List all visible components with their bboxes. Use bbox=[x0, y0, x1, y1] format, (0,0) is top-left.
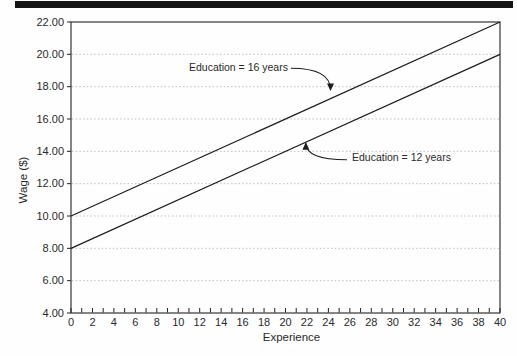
x-tick-label: 18 bbox=[258, 316, 270, 328]
x-axis-label: Experience bbox=[263, 331, 321, 343]
y-tick-label: 4.00 bbox=[43, 307, 64, 319]
x-tick-label: 30 bbox=[387, 316, 399, 328]
y-tick-label: 12.00 bbox=[36, 177, 64, 189]
x-tick-label: 24 bbox=[322, 316, 334, 328]
y-tick-label: 16.00 bbox=[36, 113, 64, 125]
x-tick-label: 28 bbox=[365, 316, 377, 328]
y-tick-label: 10.00 bbox=[36, 210, 64, 222]
x-tick-label: 2 bbox=[89, 316, 95, 328]
x-tick-label: 12 bbox=[194, 316, 206, 328]
y-tick-label: 20.00 bbox=[36, 48, 64, 60]
textbook-figure-page: 4.006.008.0010.0012.0014.0016.0018.0020.… bbox=[0, 0, 517, 356]
x-tick-label: 10 bbox=[172, 316, 184, 328]
x-tick-label: 34 bbox=[430, 316, 442, 328]
annotation-label-1: Education = 16 years bbox=[189, 61, 288, 73]
x-tick-label: 22 bbox=[301, 316, 313, 328]
annotation-arrow-2 bbox=[306, 143, 347, 160]
x-tick-label: 38 bbox=[472, 316, 484, 328]
x-tick-label: 14 bbox=[215, 316, 227, 328]
x-tick-label: 4 bbox=[111, 316, 117, 328]
x-tick-label: 8 bbox=[154, 316, 160, 328]
x-tick-label: 0 bbox=[68, 316, 74, 328]
x-tick-label: 20 bbox=[279, 316, 291, 328]
y-tick-label: 18.00 bbox=[36, 80, 64, 92]
y-axis-label: Wage ($) bbox=[17, 156, 29, 203]
annotation-label-2: Education = 12 years bbox=[352, 151, 451, 163]
x-tick-label: 32 bbox=[408, 316, 420, 328]
wage-experience-line-chart: 4.006.008.0010.0012.0014.0016.0018.0020.… bbox=[0, 0, 517, 356]
y-tick-label: 6.00 bbox=[43, 274, 64, 286]
x-tick-label: 6 bbox=[132, 316, 138, 328]
y-tick-label: 8.00 bbox=[43, 242, 64, 254]
y-tick-label: 14.00 bbox=[36, 145, 64, 157]
x-tick-label: 36 bbox=[451, 316, 463, 328]
x-tick-label: 16 bbox=[236, 316, 248, 328]
x-tick-label: 40 bbox=[494, 316, 506, 328]
y-tick-label: 22.00 bbox=[36, 16, 64, 28]
x-tick-label: 26 bbox=[344, 316, 356, 328]
